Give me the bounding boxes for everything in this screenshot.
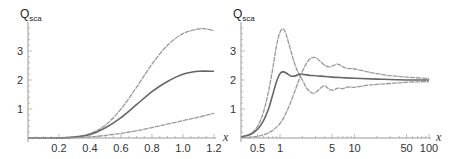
right-y-axis-title: Qsca xyxy=(233,7,255,23)
curve-lower xyxy=(241,57,429,137)
curve-upper xyxy=(28,29,214,138)
x-tick-label: 0.4 xyxy=(82,142,97,154)
x-tick-label: 50 xyxy=(400,142,412,154)
y-tick-label: 2 xyxy=(230,74,236,86)
x-tick-label: 0.8 xyxy=(144,142,159,154)
x-tick-label: 1.2 xyxy=(206,142,221,154)
y-tick-label: 1 xyxy=(17,103,23,115)
y-tick-label: 3 xyxy=(230,45,236,57)
left-curves xyxy=(28,29,214,138)
x-tick-label: 1.0 xyxy=(175,142,190,154)
x-tick-label: 0.6 xyxy=(113,142,128,154)
x-tick-label: 0.5 xyxy=(250,142,265,154)
figure: 1230.20.40.60.81.01.2 Qsca x 1230.515105… xyxy=(0,0,456,159)
right-x-axis-title: x xyxy=(435,130,442,144)
y-tick-label: 1 xyxy=(230,103,236,115)
curve-middle xyxy=(28,71,214,138)
y-tick-label: 3 xyxy=(17,45,23,57)
x-tick-label: 10 xyxy=(348,142,360,154)
left-x-axis-title: x xyxy=(222,130,229,144)
x-tick-label: 5 xyxy=(329,142,335,154)
y-tick-label: 2 xyxy=(17,74,23,86)
right-chart: 1230.5151050100 Qsca x xyxy=(230,7,442,154)
right-axes: 1230.5151050100 xyxy=(230,22,438,154)
left-chart: 1230.20.40.60.81.01.2 Qsca x xyxy=(17,7,229,154)
x-tick-label: 0.2 xyxy=(51,142,66,154)
curve-upper xyxy=(241,29,429,137)
curve-middle xyxy=(241,72,429,137)
x-tick-label: 1 xyxy=(277,142,283,154)
right-curves xyxy=(241,29,429,138)
left-y-axis-title: Qsca xyxy=(20,7,42,23)
